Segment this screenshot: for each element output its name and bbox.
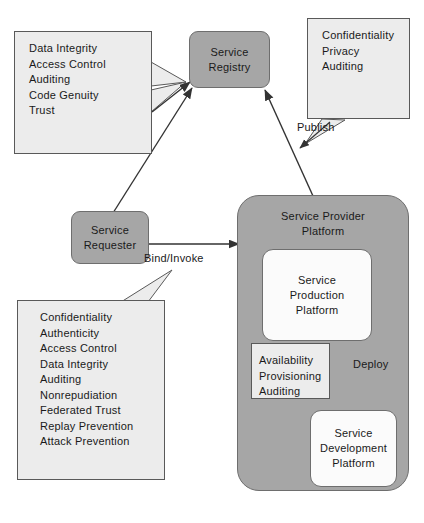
callout-tail-registry-requirements-fold xyxy=(151,82,186,112)
note-publish-requirements: Confidentiality Privacy Auditing xyxy=(307,18,410,119)
callout-tail-registry-requirements xyxy=(151,62,186,86)
node-service-development-platform[interactable]: Service Development Platform xyxy=(310,410,397,487)
note-publish-requirements-text: Confidentiality Privacy Auditing xyxy=(322,28,394,75)
note-registry-requirements-text: Data Integrity Access Control Auditing C… xyxy=(29,41,106,119)
note-bind-invoke-requirements-text: Confidentiality Authenticity Access Cont… xyxy=(40,310,133,450)
node-service-production-platform-label: Service Production Platform xyxy=(290,273,345,318)
note-deploy-requirements: Availability Provisioning Auditing xyxy=(251,343,330,399)
edge-label-bind-invoke: Bind/Invoke xyxy=(144,252,204,264)
note-deploy-requirements-text: Availability Provisioning Auditing xyxy=(259,353,321,400)
node-service-development-platform-label: Service Development Platform xyxy=(320,426,387,471)
node-service-requester[interactable]: Service Requester xyxy=(71,211,149,264)
note-bind-invoke-requirements: Confidentiality Authenticity Access Cont… xyxy=(17,300,165,480)
node-service-registry[interactable]: Service Registry xyxy=(189,31,270,88)
callout-tail-bind-invoke-requirements xyxy=(121,270,172,302)
edge-label-deploy: Deploy xyxy=(353,358,388,370)
note-registry-requirements: Data Integrity Access Control Auditing C… xyxy=(14,31,152,154)
node-service-production-platform[interactable]: Service Production Platform xyxy=(262,249,372,341)
node-service-registry-label: Service Registry xyxy=(209,45,251,75)
edge-label-publish: Publish xyxy=(297,121,334,133)
node-service-provider-platform-label: Service Provider Platform xyxy=(281,205,365,239)
node-service-requester-label: Service Requester xyxy=(84,223,137,253)
diagram-canvas: Data Integrity Access Control Auditing C… xyxy=(0,0,424,523)
